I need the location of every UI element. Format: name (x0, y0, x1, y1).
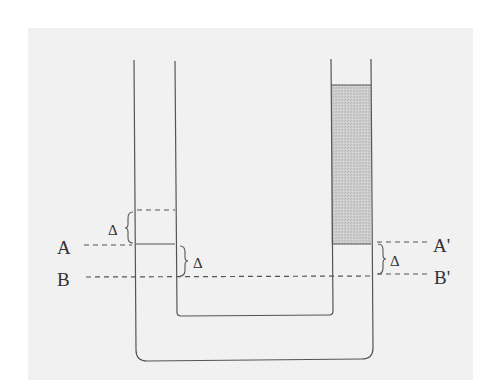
delta-label-left-upper: Δ (108, 222, 118, 238)
label-A-prime: A' (433, 235, 450, 256)
delta-label-left-lower: Δ (193, 255, 203, 271)
paper-background (28, 28, 473, 380)
delta-label-right: Δ (390, 253, 400, 269)
label-A: A (57, 237, 71, 258)
u-tube-diagram: Δ Δ Δ A B A' B' (0, 0, 498, 391)
fluid-column-right (331, 85, 371, 244)
label-B-prime: B' (434, 267, 450, 288)
label-B: B (57, 269, 70, 290)
